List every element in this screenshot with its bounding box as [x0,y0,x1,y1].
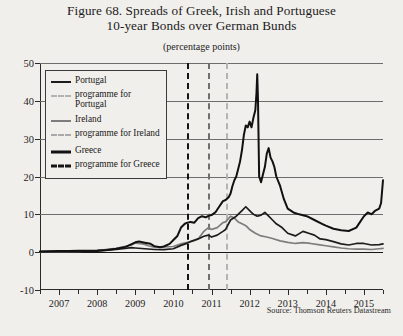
legend-programme-ireland[interactable]: programme for Ireland [51,128,161,141]
x-tick-mark [345,290,346,294]
x-tick-mark [173,290,174,295]
x-tick-mark [288,290,289,295]
legend-label: programme for Ireland [75,128,160,138]
legend-label: programme for Portugal [75,89,161,110]
y-tick-label-0: 0 [29,247,34,258]
legend-label: programme for Greece [75,159,160,169]
y-tick-label-50: 50 [24,58,35,69]
figure-title-line1: Figure 68. Spreads of Greek, Irish and P… [67,3,336,18]
figure-subtitle: (percentage points) [0,41,403,52]
figure-title-line2: 10-year Bonds over German Bunds [0,18,403,33]
x-tick-mark [40,290,41,294]
x-tick-label-2010: 2010 [163,298,183,309]
y-tick-label-10: 10 [24,209,35,220]
solid-line-icon [51,146,71,158]
x-tick-mark [307,290,308,294]
x-tick-label-2007: 2007 [49,298,69,309]
dashed-line-icon [51,160,71,172]
x-tick-mark [78,290,79,294]
x-tick-mark [135,290,136,295]
x-tick-mark [326,290,327,295]
legend-programme-greece[interactable]: programme for Greece [51,159,161,172]
x-tick-label-2008: 2008 [87,298,107,309]
solid-line-icon [51,76,71,88]
y-tick-label-30: 30 [24,133,35,144]
figure-root: Figure 68. Spreads of Greek, Irish and P… [0,0,403,336]
x-tick-mark [192,290,193,294]
chart-legend: Portugalprogramme for PortugalIrelandpro… [45,70,167,179]
dashed-line-icon [51,129,71,141]
y-tick-label-20: 20 [24,171,35,182]
x-tick-mark [231,290,232,294]
x-tick-label-2011: 2011 [202,298,222,309]
solid-line-icon [51,115,71,127]
dashed-line-icon [51,90,71,102]
legend-ireland[interactable]: Ireland [51,114,161,127]
legend-label: Greece [75,145,101,155]
legend-programme-portugal[interactable]: programme for Portugal [51,89,161,110]
legend-greece[interactable]: Greece [51,145,161,158]
x-tick-mark [212,290,213,295]
x-tick-mark [116,290,117,294]
source-note: Source: Thomson Reuters Datastream [267,306,391,315]
x-tick-mark [154,290,155,294]
x-tick-mark [269,290,270,294]
legend-portugal[interactable]: Portugal [51,75,161,88]
y-tick-label-40: 40 [24,95,35,106]
x-tick-label-2012: 2012 [239,298,259,309]
series-line-ireland [40,216,383,252]
x-tick-mark [364,290,365,295]
x-tick-mark [250,290,251,295]
x-tick-mark [383,290,384,294]
y-tick-label--10: -10 [20,285,34,296]
x-tick-mark [97,290,98,295]
x-tick-mark [59,290,60,295]
legend-label: Ireland [75,114,101,124]
figure-title: Figure 68. Spreads of Greek, Irish and P… [0,3,403,33]
x-tick-label-2009: 2009 [125,298,145,309]
legend-label: Portugal [75,75,107,85]
